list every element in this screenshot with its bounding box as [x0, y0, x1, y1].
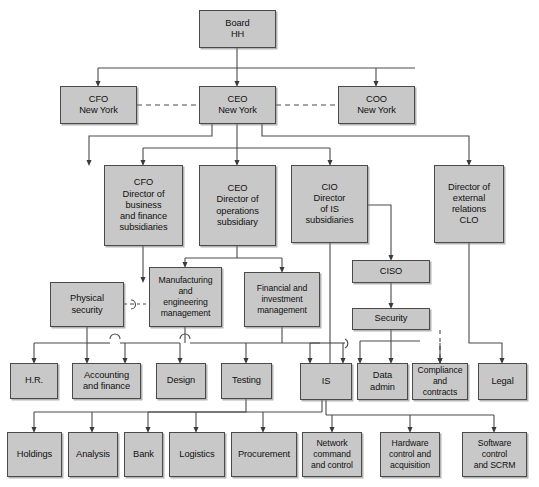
- node-ciso[interactable]: CISO: [352, 260, 430, 283]
- node-is[interactable]: IS: [300, 363, 352, 400]
- node-director-external-relations[interactable]: Director of external relations CLO: [434, 165, 504, 243]
- node-procurement[interactable]: Procurement: [231, 432, 297, 477]
- node-hardware-control-acquisition[interactable]: Hardware control and acquisition: [380, 432, 440, 477]
- node-board[interactable]: Board HH: [199, 10, 276, 48]
- node-accounting-finance[interactable]: Accounting and finance: [72, 363, 141, 399]
- node-hr[interactable]: H.R.: [10, 363, 58, 399]
- node-analysis[interactable]: Analysis: [68, 432, 118, 477]
- node-data-admin[interactable]: Data admin: [357, 363, 408, 400]
- node-network-command-control[interactable]: Network command and control: [302, 432, 362, 477]
- node-manufacturing-engineering[interactable]: Manufacturing and engineering management: [149, 267, 222, 327]
- node-ceo-new-york[interactable]: CEO New York: [199, 86, 276, 124]
- node-cfo-director[interactable]: CFO Director of business and finance sub…: [104, 165, 183, 246]
- node-testing[interactable]: Testing: [221, 363, 272, 399]
- node-logistics[interactable]: Logistics: [169, 432, 225, 477]
- node-financial-investment[interactable]: Financial and investment management: [244, 272, 320, 327]
- node-coo-new-york[interactable]: COO New York: [338, 86, 415, 124]
- node-cio-director[interactable]: CIO Director of IS subsidiaries: [291, 165, 368, 243]
- node-physical-security[interactable]: Physical security: [50, 282, 124, 327]
- node-cfo-new-york[interactable]: CFO New York: [60, 86, 137, 124]
- node-ceo-director[interactable]: CEO Director of operations subsidiary: [199, 165, 276, 246]
- node-software-control-scrm[interactable]: Software control and SCRM: [462, 432, 527, 477]
- node-holdings[interactable]: Holdings: [7, 432, 62, 477]
- node-design[interactable]: Design: [156, 363, 206, 399]
- org-chart: Board HH CFO New York CEO New York COO N…: [0, 0, 539, 487]
- node-bank[interactable]: Bank: [124, 432, 163, 477]
- node-compliance-contracts[interactable]: Compliance and contracts: [412, 363, 468, 400]
- node-security[interactable]: Security: [352, 308, 430, 330]
- node-legal[interactable]: Legal: [478, 363, 527, 400]
